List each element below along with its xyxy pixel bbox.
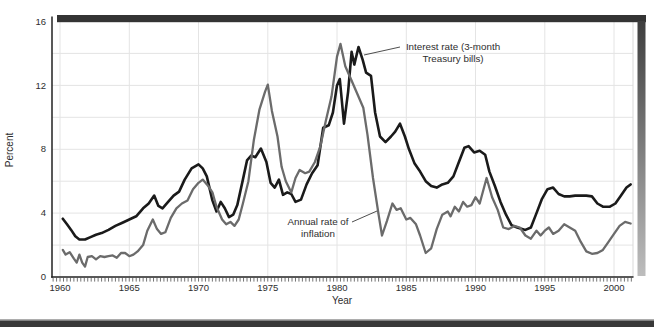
y-tick-label: 12 — [35, 80, 46, 91]
interest-rate-label-line2: Treasury bills) — [422, 53, 483, 64]
x-tick-label: 1990 — [465, 282, 486, 293]
figure-interest-vs-inflation: 0481216 19601965197019751980198519901995… — [0, 0, 654, 327]
x-tick-label: 2000 — [603, 282, 624, 293]
bottom-band-edge — [0, 319, 654, 320]
x-axis-tick-labels: 196019651970197519801985199019952000 — [49, 282, 624, 293]
interest-rate-line — [63, 47, 631, 240]
inflation-label-line2: inflation — [301, 228, 335, 239]
y-tick-label: 8 — [41, 143, 46, 154]
interest-rate-label-line1: Interest rate (3-month — [406, 41, 500, 52]
gridlines — [52, 22, 633, 278]
y-tick-label: 4 — [41, 207, 46, 218]
data-series — [63, 44, 631, 267]
inflation-line — [63, 44, 631, 267]
inflation-label-line1: Annual rate of — [287, 216, 348, 227]
x-tick-label: 1960 — [49, 282, 70, 293]
x-axis-title: Year — [332, 295, 353, 306]
x-tick-label: 1975 — [257, 282, 278, 293]
x-tick-label: 1995 — [534, 282, 555, 293]
y-tick-label: 0 — [41, 271, 46, 282]
top-border-bar — [57, 15, 646, 22]
y-tick-label: 16 — [35, 16, 46, 27]
x-tick-label: 1970 — [188, 282, 209, 293]
x-tick-label: 1980 — [326, 282, 347, 293]
x-tick-label: 1965 — [119, 282, 140, 293]
y-axis-tick-labels: 0481216 — [35, 16, 46, 283]
bottom-page-band — [0, 321, 654, 327]
fisher-effect-chart: 0481216 19601965197019751980198519901995… — [0, 0, 654, 327]
right-shadow-bar — [638, 21, 646, 276]
y-axis-title: Percent — [4, 133, 15, 168]
x-tick-label: 1985 — [396, 282, 417, 293]
